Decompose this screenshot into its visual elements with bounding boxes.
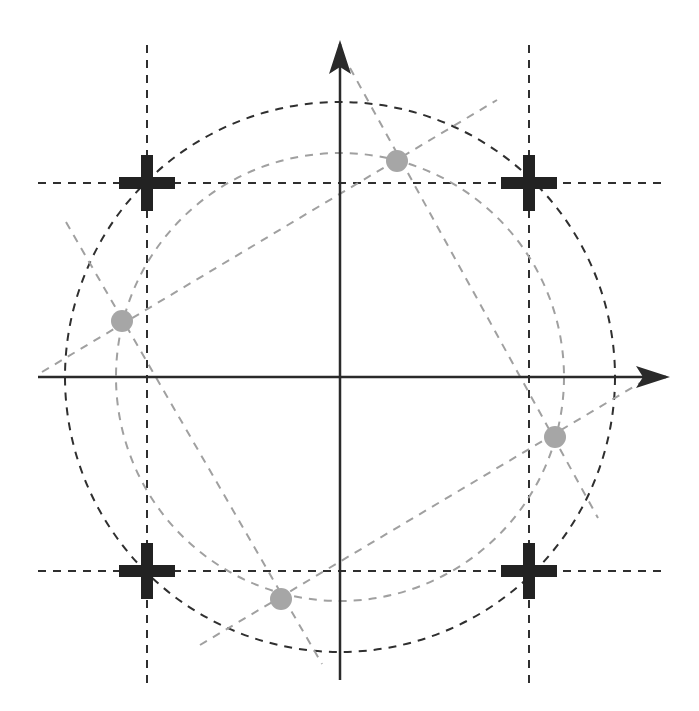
axes <box>38 44 666 680</box>
dot-marker-icon <box>270 588 292 610</box>
rotated-line-right <box>350 68 598 518</box>
decision-grid-lines <box>38 45 666 685</box>
constellation-diagram <box>0 0 699 711</box>
cross-marker-icon <box>501 543 557 599</box>
dot-marker-icon <box>544 426 566 448</box>
cross-marker-icon <box>501 155 557 211</box>
rotated-line-top-left-to-right <box>42 100 497 372</box>
dot-marker-icon <box>111 310 133 332</box>
dot-marker-icon <box>386 150 408 172</box>
